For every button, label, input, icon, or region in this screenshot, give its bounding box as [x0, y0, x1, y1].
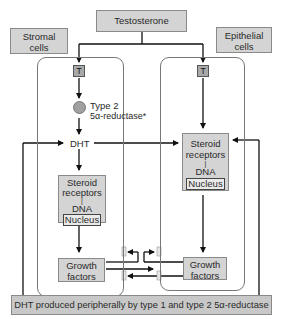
enzyme-circle-icon — [73, 101, 86, 114]
enzyme-label: Type 2 5α-reductase* — [90, 100, 146, 122]
stromal-nucleus-label: Nucleus — [63, 214, 101, 226]
epithelial-growth-factors-box: Growth factors — [183, 257, 227, 280]
peripheral-dht-footer: DHT produced peripherally by type 1 and … — [11, 295, 272, 315]
stromal-growth-factors-box: Growth factors — [58, 258, 105, 282]
testosterone-label: Testosterone — [114, 15, 168, 26]
epithelial-nucleus-label: Nucleus — [186, 178, 224, 190]
dht-label: DHT — [70, 138, 90, 149]
epithelial-steroid-receptor-box: Steroid receptors | DNA Nucleus — [182, 133, 229, 191]
epithelial-cells-label: Epithelial cells — [216, 27, 272, 53]
stromal-steroid-receptor-box: Steroid receptors | DNA Nucleus — [58, 175, 106, 223]
epithelial-testosterone-marker: T — [197, 65, 209, 77]
stromal-cells-label: Stromal cells — [10, 28, 68, 54]
testosterone-box: Testosterone — [96, 10, 187, 32]
stromal-testosterone-marker: T — [73, 65, 85, 77]
